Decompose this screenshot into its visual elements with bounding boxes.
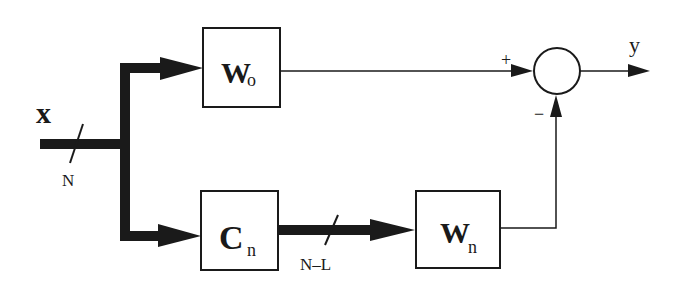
bus-width-label-nl: N–L — [300, 255, 331, 274]
plus-sign: + — [501, 50, 511, 70]
bus-to-w0 — [120, 57, 203, 80]
block-wn: W n — [416, 191, 500, 268]
bus-cn-to-wn — [278, 215, 415, 245]
block-w0: W o — [203, 28, 280, 107]
input-bus — [40, 124, 126, 163]
block-w0-subscript: o — [247, 70, 256, 90]
input-label-x: x — [36, 96, 51, 129]
output-signal — [580, 64, 650, 77]
block-cn-subscript: n — [247, 240, 256, 260]
block-diagram: x N W o C n N–L W n + — [0, 0, 681, 286]
block-cn-label: C — [219, 219, 244, 256]
block-wn-label: W — [440, 216, 470, 249]
bus-to-cn — [120, 224, 201, 247]
minus-sign: − — [534, 104, 544, 124]
output-label-y: y — [629, 32, 640, 57]
signal-w0-to-sum — [280, 64, 533, 77]
signal-wn-to-sum — [500, 95, 562, 228]
block-cn: C n — [201, 191, 278, 270]
block-wn-subscript: n — [468, 237, 477, 257]
bus-width-label-n: N — [62, 171, 74, 190]
summing-junction — [534, 48, 580, 94]
